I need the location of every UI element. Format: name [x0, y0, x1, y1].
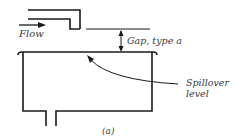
flow-label: Flow: [18, 28, 44, 39]
gap-label: Gap, type a: [127, 35, 182, 46]
spillover-label-line2: level: [186, 88, 209, 99]
spillover-label-line1: Spillover: [186, 77, 230, 88]
spillover-leader-arrow-icon: [87, 55, 178, 84]
figure-caption: (a): [102, 126, 115, 136]
inlet-pipe: [28, 10, 80, 29]
receiving-tank: [18, 52, 157, 126]
gap-dimension-arrow-icon: [119, 30, 124, 52]
air-gap-diagram: Flow Gap, type a Spillover level (a): [0, 0, 237, 140]
